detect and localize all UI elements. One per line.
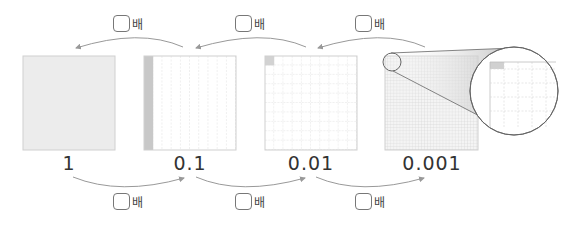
answer-box[interactable] [113, 15, 130, 32]
value-label-0-1: 0.1 [173, 152, 206, 174]
times-suffix: 배 [374, 15, 385, 32]
top-blank-2: 배 [235, 15, 265, 32]
top-blank-3: 배 [355, 15, 385, 32]
square-one-hundredth [265, 56, 357, 150]
times-suffix: 배 [374, 193, 385, 210]
top-blank-1: 배 [113, 15, 143, 32]
arrow-bottom-2 [196, 177, 305, 187]
times-suffix: 배 [254, 15, 265, 32]
answer-box[interactable] [355, 193, 372, 210]
bottom-blank-3: 배 [355, 193, 385, 210]
times-suffix: 배 [132, 193, 143, 210]
arrow-top-2 [196, 38, 306, 48]
answer-box[interactable] [113, 193, 130, 210]
value-label-0-001: 0.001 [402, 152, 461, 174]
decimal-place-value-diagram [0, 0, 574, 227]
bottom-blank-2: 배 [235, 193, 265, 210]
times-suffix: 배 [254, 193, 265, 210]
square-one-whole [23, 56, 115, 150]
answer-box[interactable] [235, 193, 252, 210]
times-suffix: 배 [132, 15, 143, 32]
answer-box[interactable] [235, 15, 252, 32]
arrow-bottom-3 [316, 177, 424, 187]
answer-box[interactable] [355, 15, 372, 32]
arrow-top-3 [318, 38, 425, 48]
value-label-0-01: 0.01 [288, 152, 334, 174]
arrow-bottom-1 [73, 177, 184, 187]
bottom-blank-1: 배 [113, 193, 143, 210]
value-label-1: 1 [62, 152, 75, 174]
arrow-top-1 [76, 38, 183, 48]
square-one-tenth [144, 56, 236, 150]
